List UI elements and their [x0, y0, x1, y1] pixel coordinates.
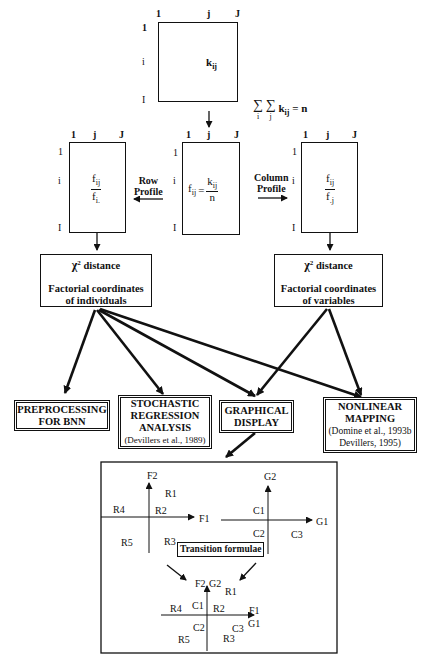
label-g2: G2: [264, 471, 276, 482]
matrix-k-cell-sub: ij: [212, 62, 217, 71]
row-profile-line1: Row: [134, 175, 163, 186]
output-graphical-line1: GRAPHICAL: [224, 405, 288, 417]
output-preprocessing-line1: PREPROCESSING: [17, 404, 106, 416]
label-combined-r3: R3: [223, 633, 235, 644]
matrix-f-cell-formula: fij = kij n: [188, 176, 218, 203]
matrix-col-cell: fij f.j: [325, 172, 335, 207]
output-stochastic-line2: REGRESSION: [131, 410, 200, 422]
output-stochastic-line3: ANALYSIS: [139, 422, 191, 434]
factorial-variables-line2: of variables: [275, 295, 382, 307]
label-c3: C3: [291, 529, 303, 540]
f-eq: =: [198, 184, 204, 196]
label-r4: R4: [113, 504, 125, 515]
column-profile-line2: Profile: [254, 183, 288, 194]
matrix-col-row-1: 1: [292, 146, 297, 157]
factorial-individuals-line2: of individuals: [41, 295, 151, 307]
sum-rhs: = n: [292, 102, 307, 114]
matrix-row-col-J: J: [119, 129, 124, 140]
arrow-transition-left: [167, 565, 186, 580]
matrix-row-row-I: I: [58, 222, 61, 233]
label-combined-c1: C1: [192, 600, 204, 611]
chi-distance-label: distance: [83, 260, 120, 271]
label-combined-g1: G1: [248, 618, 260, 629]
output-nonlinear-line1: NONLINEAR: [338, 401, 402, 413]
output-nonlinear-line2: MAPPING: [345, 413, 395, 425]
output-preprocessing-line2: FOR BNN: [39, 416, 86, 428]
output-nonlinear-mapping: NONLINEAR MAPPING (Domine et al., 1993b …: [323, 397, 417, 453]
f-den: n: [210, 192, 216, 203]
label-combined-c2: C2: [193, 622, 205, 633]
matrix-k-row-i: i: [142, 56, 145, 67]
label-r3: R3: [164, 536, 176, 547]
label-f2: F2: [147, 470, 158, 481]
label-r2: R2: [155, 505, 167, 516]
sum-index-i: i: [257, 112, 259, 121]
output-stochastic-line1: STOCHASTIC: [131, 398, 200, 410]
matrix-k-col-J: J: [235, 8, 240, 19]
output-graphical-line2: DISPLAY: [234, 417, 279, 429]
row-profile-line2: Profile: [134, 186, 163, 197]
column-profile-label: Column Profile: [254, 172, 288, 194]
matrix-f-col-j: j: [207, 129, 210, 140]
sum-term-sub: ij: [285, 108, 290, 117]
chi-sup: 2: [77, 259, 81, 267]
output-stochastic-citation: (Devillers et al., 1989): [124, 434, 205, 446]
sum-index-j: j: [270, 112, 272, 121]
label-r5: R5: [121, 537, 133, 548]
matrix-k-body: [158, 22, 238, 102]
label-c1: C1: [253, 505, 265, 516]
matrix-row-row-i: i: [58, 175, 61, 186]
matrix-f-col-1: 1: [186, 129, 191, 140]
factorial-individuals-line1: Factorial coordinates: [41, 283, 151, 295]
label-combined-g2: G2: [209, 578, 221, 589]
output-stochastic-regression: STOCHASTIC REGRESSION ANALYSIS (Deviller…: [118, 395, 212, 449]
matrix-col-col-j: j: [326, 129, 329, 140]
matrix-k-cell: kij: [206, 56, 217, 71]
arrows-variables-to-outputs: [257, 309, 361, 395]
chi-sup: 2: [310, 259, 314, 267]
matrix-k-row-I: I: [142, 94, 145, 105]
matrix-k-col-j: j: [207, 8, 210, 19]
row-den-sub: i.: [96, 196, 100, 205]
chi-distance-label: distance: [316, 260, 353, 271]
matrix-k-col-1: 1: [156, 8, 161, 19]
matrix-f-col-J: J: [234, 129, 239, 140]
label-combined-f1: F1: [249, 605, 260, 616]
label-r1: R1: [165, 488, 177, 499]
matrix-k-row-1: 1: [142, 22, 147, 33]
matrix-f-row-1: 1: [173, 147, 178, 158]
label-combined-f2: F2: [195, 578, 206, 589]
output-nonlinear-citation: (Domine et al., 1993b Devillers, 1995): [328, 425, 412, 449]
f-num-sub: ij: [213, 181, 217, 190]
matrix-col-col-J: J: [352, 129, 357, 140]
matrix-row-cell: fij fi.: [91, 172, 101, 207]
matrix-f-row-i: i: [173, 175, 176, 186]
factorial-variables-line1: Factorial coordinates: [275, 283, 382, 295]
label-f1: F1: [199, 513, 210, 524]
matrix-row-row-1: 1: [58, 146, 63, 157]
col-den-sub: .j: [330, 196, 334, 205]
label-combined-r1: R1: [225, 586, 237, 597]
matrix-col-row-I: I: [292, 222, 295, 233]
label-combined-r2: R2: [213, 603, 225, 614]
label-c2: C2: [253, 528, 265, 539]
matrix-f-row-I: I: [173, 222, 176, 233]
matrix-row-col-j: j: [93, 129, 96, 140]
row-profile-label: Row Profile: [134, 175, 163, 197]
transition-formulae-box: Transition formulae: [177, 542, 264, 557]
output-preprocessing-bnn: PREPROCESSING FOR BNN: [14, 400, 110, 431]
arrow-transition-right: [240, 563, 256, 580]
matrix-col-row-i: i: [292, 175, 295, 186]
sum-formula: ∑i ∑j kij = n: [253, 100, 307, 122]
label-g1: G1: [316, 516, 328, 527]
chi-box-variables: χ2 distance Factorial coordinates of var…: [274, 254, 383, 307]
label-combined-r4: R4: [170, 603, 182, 614]
col-num-sub: ij: [330, 178, 334, 187]
row-num-sub: ij: [96, 178, 100, 187]
chi-box-individuals: χ2 distance Factorial coordinates of ind…: [40, 254, 152, 307]
f-lhs-sub: ij: [192, 188, 196, 197]
matrix-row-col-1: 1: [71, 129, 76, 140]
arrow-graphical-to-panel: [226, 433, 255, 457]
label-combined-c3: C3: [232, 623, 244, 634]
matrix-col-col-1: 1: [303, 129, 308, 140]
